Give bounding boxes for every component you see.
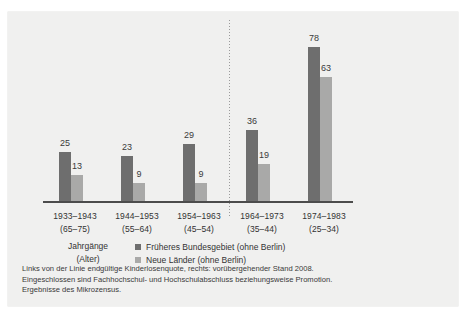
footnote-line-3: Ergebnisse des Mikrozensus.: [22, 285, 442, 296]
bar-dark[interactable]: 29: [183, 144, 195, 201]
bar-value-label: 19: [259, 150, 269, 161]
bar-value-label: 36: [247, 116, 257, 127]
bar-value-label: 13: [72, 161, 82, 172]
bar-dark[interactable]: 78: [308, 47, 320, 201]
bar-dark[interactable]: 23: [121, 156, 133, 201]
legend-item[interactable]: Früheres Bundesgebiet (ohne Berlin): [135, 240, 285, 253]
x-tick-label: 1974–1983 (25–34): [288, 210, 360, 235]
bar-group: 23 9: [121, 26, 175, 201]
legend-swatch-icon: [135, 244, 141, 250]
x-axis-caption: Jahrgänge (Alter): [58, 240, 118, 266]
bar-dark[interactable]: 36: [246, 130, 258, 201]
legend-swatch-icon: [135, 257, 141, 263]
bar-light[interactable]: 9: [195, 183, 207, 201]
bar-value-label: 23: [122, 142, 132, 153]
bar-dark[interactable]: 25: [59, 152, 71, 201]
bar-group: 78 63: [308, 26, 362, 201]
x-tick-label-years: 1954–1963: [163, 210, 235, 223]
x-tick-label-ages: (45–54): [163, 223, 235, 236]
bar-value-label: 63: [321, 63, 331, 74]
chart-legend: Früheres Bundesgebiet (ohne Berlin) Neue…: [135, 240, 285, 266]
chart-screenshot: 25 13 23 9: [0, 0, 474, 324]
footnote-line-2: Eingeschlossen sind Fachhochschul- und H…: [22, 275, 442, 286]
bar-value-label: 25: [60, 138, 70, 149]
bar-light[interactable]: 63: [320, 77, 332, 201]
bar-group: 29 9: [183, 26, 237, 201]
x-tick-label: 1954–1963 (45–54): [163, 210, 235, 235]
legend-item-label: Neue Länder (ohne Berlin): [146, 255, 246, 265]
chart-panel: 25 13 23 9: [8, 12, 458, 306]
bar-value-label: 78: [309, 33, 319, 44]
x-tick-label-ages: (25–34): [288, 223, 360, 236]
legend-item-label: Früheres Bundesgebiet (ohne Berlin): [146, 242, 285, 252]
plot-area: 25 13 23 9: [43, 16, 388, 211]
bar-group: 25 13: [59, 26, 113, 201]
bar-light[interactable]: 19: [258, 164, 270, 201]
footnote-line-1: Links von der Linie endgültige Kinderlos…: [22, 264, 442, 275]
bar-light[interactable]: 9: [133, 183, 145, 201]
x-tick-label-years: 1974–1983: [288, 210, 360, 223]
x-axis-caption-line1: Jahrgänge: [58, 240, 118, 253]
chart-footnote: Links von der Linie endgültige Kinderlos…: [22, 264, 442, 296]
bar-value-label: 9: [136, 169, 141, 180]
bar-value-label: 9: [198, 169, 203, 180]
x-axis-line: [43, 201, 353, 203]
bar-light[interactable]: 13: [71, 175, 83, 201]
bar-value-label: 29: [184, 130, 194, 141]
bar-group: 36 19: [246, 26, 300, 201]
